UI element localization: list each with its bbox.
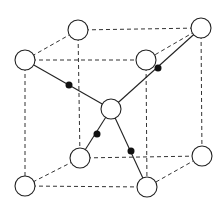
corner-atom (68, 20, 88, 40)
bond-line (111, 109, 147, 187)
corner-atom (70, 148, 90, 168)
cube-edge (201, 28, 202, 156)
cube-edge (78, 30, 80, 158)
small-atom (94, 131, 101, 138)
corner-atom (191, 18, 211, 38)
cube-edge (78, 28, 201, 30)
corner-atom (137, 177, 157, 197)
corner-atom (192, 146, 212, 166)
corner-atom (136, 50, 156, 70)
crystal-structure-diagram (0, 0, 220, 202)
small-atom (128, 148, 135, 155)
cube-edge (80, 156, 202, 158)
cube-edge (25, 186, 147, 187)
center-atom (101, 99, 121, 119)
corner-atom (15, 50, 35, 70)
small-atom (66, 82, 73, 89)
small-atom (155, 65, 162, 72)
corner-atom (15, 176, 35, 196)
cube-edge (146, 60, 147, 187)
